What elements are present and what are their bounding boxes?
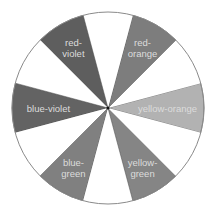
label-yellow-green: yellow-green (128, 157, 158, 179)
label-yellow-orange: yellow-orange (138, 103, 197, 114)
label-red-violet: red-violet (62, 37, 85, 59)
label-blue-violet: blue-violet (27, 103, 71, 114)
color-wheel: yellow-orangered-orangered-violetblue-vi… (0, 0, 207, 217)
center-point (106, 106, 109, 109)
label-blue-green: blue-green (61, 157, 85, 179)
